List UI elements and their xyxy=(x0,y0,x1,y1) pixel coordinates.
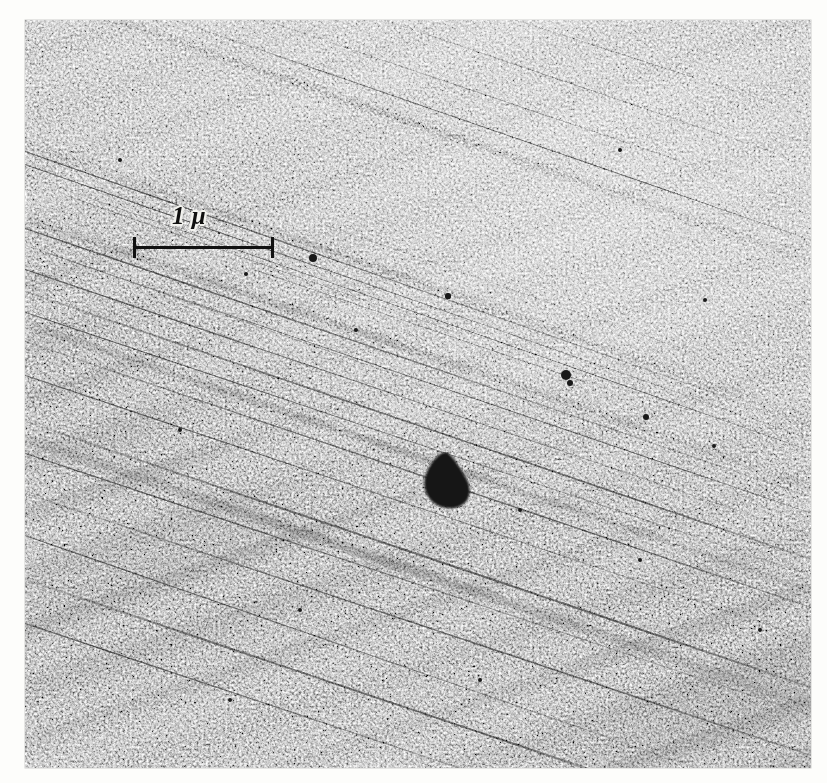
precipitate-speck xyxy=(703,298,707,302)
precipitate-speck xyxy=(228,698,232,702)
precipitate-speck xyxy=(567,380,573,386)
scale-bar-tick-right xyxy=(271,237,274,258)
scale-bar-rule xyxy=(133,246,274,249)
precipitate-speck xyxy=(309,254,317,262)
scale-bar-tick-left xyxy=(133,237,136,258)
scale-bar xyxy=(133,237,274,259)
precipitate-speck xyxy=(445,293,450,298)
figure-root: 1 μ xyxy=(0,0,827,783)
precipitate-speck xyxy=(244,272,248,276)
dark-precipitate-particle xyxy=(421,452,473,510)
precipitate-speck xyxy=(618,148,622,152)
precipitate-speck xyxy=(758,628,762,632)
precipitate-speck xyxy=(638,558,642,562)
precipitate-speck xyxy=(178,428,182,432)
precipitate-speck xyxy=(118,158,122,162)
scale-bar-label: 1 μ xyxy=(172,203,206,228)
film-grain-fine xyxy=(25,20,811,768)
micrograph-image: 1 μ xyxy=(25,20,811,768)
